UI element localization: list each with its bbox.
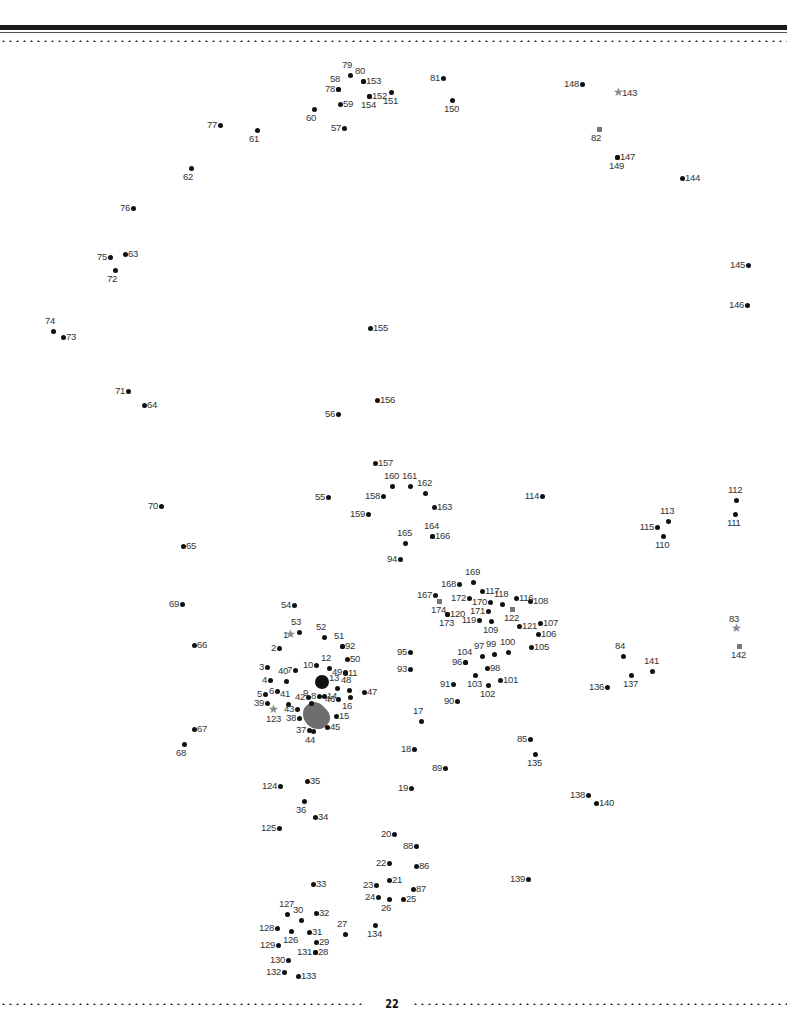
dot-marker-icon [538,621,543,626]
dot-marker-icon [123,252,128,257]
dot-marker-icon [305,779,310,784]
dot-marker-icon [368,326,373,331]
dot-number-label: 108 [533,596,548,606]
dot-marker-icon [457,582,462,587]
dot-number-label: 103 [467,679,482,689]
dot-marker-icon [409,786,414,791]
dot-marker-icon [345,657,350,662]
dot-number-label: 133 [301,971,316,981]
dot-number-label: 97 [474,641,484,651]
dot-marker-icon [661,534,666,539]
dot-marker-icon [312,107,317,112]
dot-number-label: 158 [365,491,380,501]
dot-marker-icon [441,76,446,81]
dot-number-label: 30 [293,905,303,915]
dot-number-label: 8 [311,691,316,701]
dot-marker-icon [327,666,332,671]
dot-number-label: 135 [527,758,542,768]
dot-marker-icon [278,784,283,789]
dot-marker-icon [192,643,197,648]
dot-number-label: 174 [431,605,446,615]
dot-marker-icon [255,128,260,133]
dot-number-label: 111 [727,518,741,528]
dot-number-label: 134 [367,929,382,939]
dot-number-label: 114 [525,491,539,501]
dot-number-label: 61 [249,134,259,144]
dot-marker-icon [307,930,312,935]
dot-marker-icon [277,826,282,831]
dot-marker-icon [293,668,298,673]
dot-number-label: 41 [280,689,290,699]
dot-number-label: 140 [599,798,614,808]
dot-marker-icon [277,646,282,651]
dot-puzzle-canvas: ★123456789101112131415161718192021222324… [0,0,787,1035]
dot-marker-icon [275,689,280,694]
dot-number-label: 15 [339,711,349,721]
dot-marker-icon [529,645,534,650]
dot-marker-icon [325,725,330,730]
dot-number-label: 48 [341,675,351,685]
dot-number-label: 82 [591,133,601,143]
dot-marker-icon [159,504,164,509]
dot-number-label: 90 [444,696,454,706]
dot-number-label: 171 [470,606,485,616]
dot-number-label: 130 [270,955,285,965]
dot-marker-icon [443,766,448,771]
dot-number-label: 156 [380,395,395,405]
dot-marker-icon [423,491,428,496]
dot-marker-icon [309,701,314,706]
dot-marker-icon [480,589,485,594]
dot-marker-icon [621,654,626,659]
dot-number-label: 93 [397,664,407,674]
dot-number-label: 68 [176,748,186,758]
dot-marker-icon [322,635,327,640]
dot-number-label: 44 [305,735,315,745]
dot-number-label: 74 [45,316,55,326]
dot-number-label: 38 [286,713,296,723]
dot-marker-icon [492,652,497,657]
dot-marker-icon [514,596,519,601]
dot-marker-icon [189,166,194,171]
dot-number-label: 94 [387,554,397,564]
dot-number-label: 166 [435,531,450,541]
dot-number-label: 167 [417,590,432,600]
square-marker-icon [437,599,442,604]
dot-number-label: 101 [503,675,518,685]
dot-marker-icon [285,912,290,917]
dot-number-label: 64 [147,400,157,410]
dot-marker-icon [265,665,270,670]
dot-number-label: 34 [318,812,328,822]
dot-marker-icon [297,716,302,721]
dot-marker-icon [387,878,392,883]
dot-number-label: 153 [366,76,381,86]
dot-number-label: 65 [186,541,196,551]
dot-number-label: 72 [107,274,117,284]
footer-dotted-rule-left [0,1003,365,1005]
dot-marker-icon [192,727,197,732]
dot-number-label: 173 [439,618,454,628]
dot-number-label: 163 [437,502,452,512]
dot-number-label: 122 [504,613,519,623]
dot-marker-icon [268,678,273,683]
eye-shape [315,675,329,689]
dot-marker-icon [401,897,406,902]
dot-marker-icon [414,864,419,869]
dot-marker-icon [414,844,419,849]
dot-marker-icon [390,484,395,489]
dot-marker-icon [412,747,417,752]
dot-marker-icon [536,632,541,637]
dot-number-label: 124 [262,781,277,791]
dot-marker-icon [733,512,738,517]
dot-number-label: 138 [570,790,585,800]
dot-number-label: 128 [259,923,274,933]
dot-number-label: 91 [440,679,450,689]
dot-number-label: 23 [363,880,373,890]
dot-marker-icon [666,519,671,524]
dot-marker-icon [373,461,378,466]
dot-number-label: 52 [316,622,326,632]
dot-marker-icon [313,815,318,820]
dot-number-label: 132 [266,967,281,977]
dot-number-label: 116 [519,593,533,603]
dot-marker-icon [375,398,380,403]
dot-number-label: 27 [337,919,347,929]
